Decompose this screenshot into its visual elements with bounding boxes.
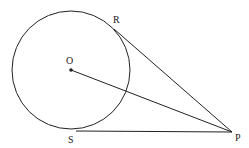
label-s: S (68, 134, 74, 145)
label-r: R (113, 14, 120, 25)
center-point-o (69, 68, 73, 72)
tangent-segment-rp (114, 29, 232, 132)
segment-op (71, 70, 232, 132)
label-o: O (66, 55, 73, 66)
label-p: P (235, 132, 241, 143)
geometry-diagram: O R S P (0, 0, 249, 148)
tangent-segment-sp (76, 131, 232, 132)
